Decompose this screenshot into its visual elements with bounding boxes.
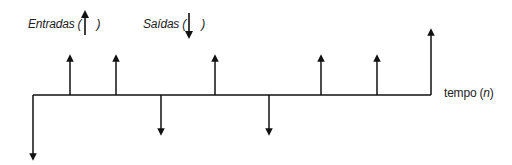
legend-outflows-label: Saídas ( [143,17,186,31]
legend-outflows: Saídas ( ) [143,17,205,31]
time-axis-label: tempo (n) [444,86,494,100]
legend-inflows-close: ) [97,17,101,31]
legend-outflows-close: ) [201,17,205,31]
legend-inflows: Entradas ( ) [28,17,100,31]
legend-inflows-label: Entradas ( [28,17,81,31]
